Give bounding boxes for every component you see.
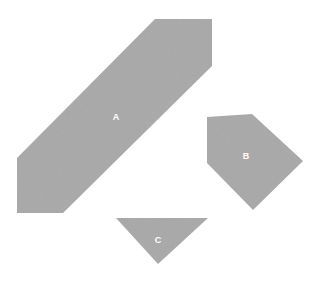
shape-label-b: B: [243, 152, 250, 161]
shapes-canvas-container: ABC: [0, 0, 314, 283]
shape-label-c: C: [155, 236, 162, 245]
shape-label-a: A: [113, 113, 120, 122]
